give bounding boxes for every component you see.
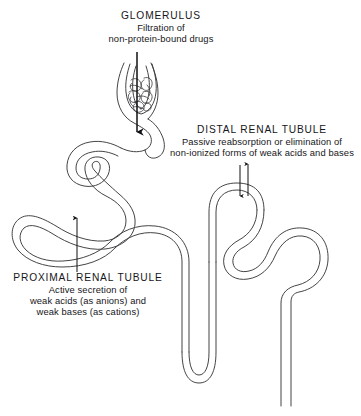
proximal-convoluted-tubule [12, 141, 135, 267]
glomerulus-title: GLOMERULUS [54, 10, 268, 22]
glomerulus-line-1: Filtration of [54, 22, 268, 33]
loop-of-henle [182, 262, 216, 383]
proximal-renal-tubule-title: PROXIMAL RENAL TUBULE [0, 272, 176, 284]
distal-renal-tubule-line-2: non-ionized forms of weak acids and base… [163, 147, 361, 158]
glomerulus-annotation: GLOMERULUS Filtration of non-protein-bou… [54, 10, 268, 44]
bowmans-capsule-inner-lining [126, 64, 157, 114]
nephron-diagram: GLOMERULUS Filtration of non-protein-bou… [0, 0, 361, 416]
distal-renal-tubule-line-1: Passive reabsorption or elimination of [163, 136, 361, 147]
nephron-illustration [0, 0, 361, 416]
distal-convoluted-tubule [224, 210, 328, 406]
distal-renal-tubule-title: DISTAL RENAL TUBULE [163, 124, 361, 136]
glomerulus-line-2: non-protein-bound drugs [54, 33, 268, 44]
bowmans-capsule [117, 63, 164, 158]
proximal-renal-tubule-line-1: Active secretion of [0, 284, 176, 295]
distal-renal-tubule-annotation: DISTAL RENAL TUBULE Passive reabsorption… [163, 124, 361, 158]
ascending-limb-to-distal [209, 183, 264, 262]
proximal-renal-tubule-line-3: weak bases (as cations) [0, 306, 176, 317]
proximal-renal-tubule-line-2: weak acids (as anions) and [0, 295, 176, 306]
proximal-renal-tubule-annotation: PROXIMAL RENAL TUBULE Active secretion o… [0, 272, 176, 317]
